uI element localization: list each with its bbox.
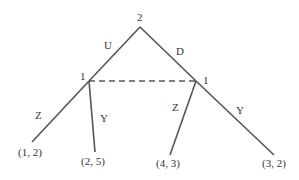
- edge-right-Z: [170, 81, 196, 155]
- payoff-3: (4, 3): [156, 158, 180, 169]
- action-U-label: U: [104, 40, 112, 51]
- root-player-label: 2: [137, 12, 143, 23]
- game-tree-lines: [0, 0, 299, 180]
- edge-U: [89, 27, 140, 81]
- edge-right-Y: [196, 81, 274, 155]
- action-D-label: D: [176, 46, 184, 57]
- left-node-player-label: 1: [80, 71, 86, 82]
- payoff-4: (3, 2): [262, 158, 286, 169]
- payoff-2: (2, 5): [81, 156, 105, 167]
- left-action-Y-label: Y: [100, 113, 108, 124]
- left-action-Z-label: Z: [35, 110, 42, 121]
- edge-D: [140, 27, 196, 81]
- edge-left-Y: [89, 81, 95, 152]
- payoff-1: (1, 2): [18, 147, 42, 158]
- right-action-Y-label: Y: [236, 105, 244, 116]
- right-action-Z-label: Z: [172, 102, 179, 113]
- right-node-player-label: 1: [203, 75, 209, 86]
